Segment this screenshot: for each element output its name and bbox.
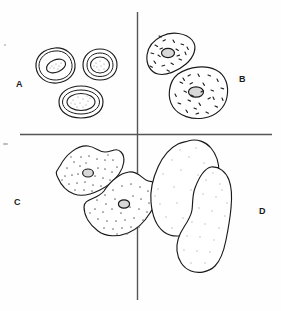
figure-canvas: .outline { fill: #ffffff; stroke: #1a1a1… (0, 0, 281, 311)
panel-b-cells (147, 33, 228, 118)
cell-morphology-figure: .outline { fill: #ffffff; stroke: #1a1a1… (0, 0, 281, 311)
cell-b1 (147, 33, 195, 74)
panel-d-cells (151, 140, 232, 272)
cell-b1-nucleus (162, 48, 175, 57)
panel-label-c: C (14, 198, 21, 207)
panel-a-cells (36, 48, 117, 118)
panel-label-d: D (259, 207, 266, 216)
scan-artifact-speck-upper (4, 44, 6, 46)
cell-b2 (169, 67, 227, 119)
cell-c1-nucleus (83, 169, 94, 177)
cell-a2-nucleus (91, 57, 110, 73)
cell-c2-nucleus (118, 200, 129, 208)
cell-a3 (59, 86, 103, 118)
cell-a1 (36, 48, 75, 83)
cell-a2 (83, 49, 117, 80)
scan-artifact-speck-lower (3, 143, 8, 145)
cell-a3-nucleus (67, 94, 95, 111)
panel-label-b: B (239, 75, 246, 84)
panel-label-a: A (16, 80, 23, 89)
panel-c-cells (56, 146, 159, 236)
